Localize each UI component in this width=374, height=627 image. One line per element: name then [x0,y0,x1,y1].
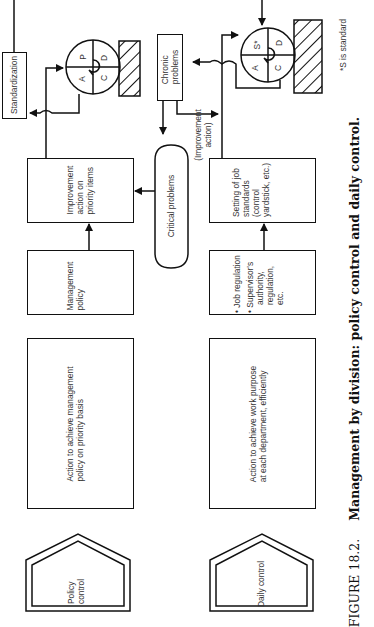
daily-action-label: Action to achieve work purpose at each d… [248,366,268,482]
pdca-cycle [66,40,120,94]
standards-line-3: (control [251,163,261,217]
pdca-label-d: D [99,55,109,61]
daily-action-line-2: at each department, efficiently [258,366,268,482]
sdca-label-d: D [274,40,284,46]
pdca-label-a: A [77,76,87,82]
regulation-item-2-line-3: regulation, [265,255,275,313]
policy-control-text: Policy control [66,564,86,604]
improvement-action-note: (Improvement action) [193,109,213,161]
job-standards-label: Setting of job standards (control yardst… [231,163,271,217]
daily-action-line-1: Action to achieve work purpose [248,366,258,482]
policy-action-label: Action to achieve management policy on p… [65,367,85,482]
regulation-item-2-line-2: authority, [255,255,265,313]
chronic-line-1: Chronic [160,50,170,84]
sdca-label-a: A [250,65,260,71]
standards-line-4: yardstick, etc.) [261,163,271,217]
regulation-item-2-line-4: etc. [275,255,285,313]
chronic-line-2: problems [170,50,180,84]
policy-action-line-1: Action to achieve management [65,367,75,482]
sdca-label-s: S* [252,41,262,50]
improvement-note-line-2: action) [203,109,213,161]
sdca-footnote: *S is standard [338,19,348,71]
policy-line-2: policy [75,262,85,311]
pdca-hatched-block [119,41,140,96]
standards-line-2: standards [241,163,251,217]
figure-title: Management by division: policy control a… [347,117,362,521]
figure-caption: FIGURE 18.2.Management by division: poli… [347,117,362,627]
chronic-problems-label: Chronic problems [160,50,180,84]
improvement-line-2: action on [75,166,85,215]
pdca-label-p: P [78,54,88,60]
management-policy-label: Management policy [65,262,85,311]
figure-label: FIGURE 18.2. [347,539,362,627]
daily-control-label: Daily control [256,561,266,607]
regulation-item-1: • Job regulation [232,255,242,313]
policy-control-label: Policy control [66,564,86,604]
sdca-label-c: C [273,65,283,71]
regulation-item-2: • Supervisor's [245,255,255,313]
standards-line-1: Setting of job [231,163,241,217]
standardization-label: Standardization [9,56,19,114]
improvement-action-label: Improvement action on priority items [65,166,95,215]
improvement-line-1: Improvement [65,166,75,215]
sdca-hatched-block [294,20,322,93]
pdca-label-c: C [99,75,109,81]
job-regulation-label: • Job regulation • Supervisor's authorit… [232,255,285,313]
improvement-line-3: priority items [85,166,95,215]
improvement-note-line-1: (Improvement [193,109,203,161]
sdca-cycle [241,28,295,82]
critical-problems-label: Critical problems [166,175,176,237]
policy-action-line-2: policy on priority basis [75,367,85,482]
policy-line-1: Management [65,262,75,311]
